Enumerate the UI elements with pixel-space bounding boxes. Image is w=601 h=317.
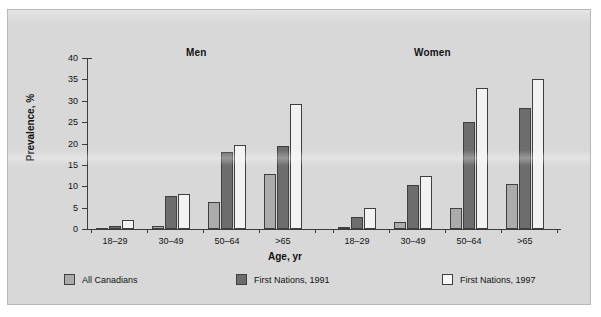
bar [122, 220, 134, 229]
x-axis-title: Age, yr [268, 251, 302, 262]
x-tick [259, 229, 260, 233]
y-tick [82, 58, 87, 59]
bar [178, 194, 190, 229]
y-tick-label: 35 [56, 75, 78, 84]
legend-item-first-nations-1997: First Nations, 1997 [442, 274, 536, 285]
y-tick-label-wrap: 25 [56, 118, 78, 127]
legend-swatch-icon-first-nations-1991 [236, 274, 247, 285]
legend-item-first-nations-1991: First Nations, 1991 [236, 274, 330, 285]
y-axis-cap-top [87, 58, 92, 59]
legend-label-first-nations-1991: First Nations, 1991 [254, 275, 330, 285]
x-tick [501, 229, 502, 233]
bar [394, 222, 406, 229]
x-tick-label: 50–64 [444, 236, 494, 246]
x-tick-label: 18–29 [332, 236, 382, 246]
bar [532, 79, 544, 229]
y-tick-label: 0 [56, 225, 78, 234]
x-tick [445, 229, 446, 233]
y-tick-label-wrap: 5 [56, 204, 78, 213]
legend-label-all-canadians: All Canadians [82, 275, 138, 285]
y-tick [82, 79, 87, 80]
legend-label-first-nations-1997: First Nations, 1997 [460, 275, 536, 285]
bar [463, 122, 475, 229]
y-tick-label-wrap: 40 [56, 54, 78, 63]
x-tick-label: 50–64 [202, 236, 252, 246]
x-tick [91, 229, 92, 233]
y-tick [82, 208, 87, 209]
y-tick-label-wrap: 20 [56, 140, 78, 149]
y-tick-label-wrap: 35 [56, 75, 78, 84]
y-tick-label: 20 [56, 140, 78, 149]
y-tick-label-wrap: 0 [56, 225, 78, 234]
bar [407, 185, 419, 229]
legend-item-all-canadians: All Canadians [64, 274, 138, 285]
y-tick-label: 30 [56, 97, 78, 106]
bar [109, 226, 121, 229]
bar [506, 184, 518, 229]
bar [338, 227, 350, 229]
legend-swatch-icon-all-canadians [64, 274, 75, 285]
y-tick [82, 144, 87, 145]
y-tick-label: 10 [56, 182, 78, 191]
x-tick [557, 229, 558, 233]
bar [476, 88, 488, 229]
y-tick-label-wrap: 30 [56, 97, 78, 106]
x-tick-label: >65 [258, 236, 308, 246]
x-tick-label: 30–49 [146, 236, 196, 246]
bar [264, 174, 276, 229]
bar [420, 176, 432, 229]
bar [96, 228, 108, 230]
y-tick-label-wrap: 10 [56, 182, 78, 191]
y-tick [82, 122, 87, 123]
chart-legend: All Canadians First Nations, 1991 First … [8, 272, 591, 292]
x-tick [147, 229, 148, 233]
y-tick [82, 186, 87, 187]
x-tick [203, 229, 204, 233]
bar [277, 146, 289, 229]
bar [351, 217, 363, 229]
x-tick-label: >65 [500, 236, 550, 246]
plot-area: 0510152025303540 18–2930–4950–64>6518–29… [8, 10, 591, 305]
bar [208, 202, 220, 229]
bar [364, 208, 376, 229]
y-tick-label: 15 [56, 161, 78, 170]
bar [290, 104, 302, 229]
bar [221, 152, 233, 229]
x-tick-label: 30–49 [388, 236, 438, 246]
bar [450, 208, 462, 229]
y-axis-line [87, 58, 88, 229]
y-tick-label-wrap: 15 [56, 161, 78, 170]
chart-panel: Men Women 0510152025303540 18–2930–4950–… [7, 9, 591, 305]
y-tick [82, 165, 87, 166]
y-tick-label: 5 [56, 204, 78, 213]
bar [234, 145, 246, 229]
y-tick [82, 101, 87, 102]
x-tick [333, 229, 334, 233]
legend-swatch-icon-first-nations-1997 [442, 274, 453, 285]
y-tick-label: 40 [56, 54, 78, 63]
x-tick [315, 229, 316, 233]
figure-container: Men Women 0510152025303540 18–2930–4950–… [0, 0, 601, 317]
bar [152, 226, 164, 229]
bar [519, 108, 531, 229]
y-axis-title: Prevalence, % [25, 78, 36, 178]
x-tick-label: 18–29 [90, 236, 140, 246]
x-axis-line [87, 229, 561, 230]
y-tick-label: 25 [56, 118, 78, 127]
bar [165, 196, 177, 229]
x-tick [389, 229, 390, 233]
